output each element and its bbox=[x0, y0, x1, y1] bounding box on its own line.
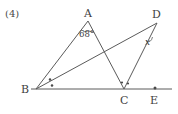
angle-label-x: x bbox=[145, 38, 150, 47]
angle-marker-dot-c1 bbox=[121, 81, 123, 83]
vertex-label-a: A bbox=[84, 8, 92, 19]
vertex-label-e: E bbox=[150, 95, 158, 106]
geometry-figure: (4) A B C D E 68° x bbox=[0, 0, 178, 114]
question-number: (4) bbox=[5, 9, 19, 19]
angle-label-68: 68° bbox=[79, 30, 94, 39]
vertex-label-d: D bbox=[152, 9, 161, 20]
angle-marker-dot-b1 bbox=[49, 78, 52, 81]
point-marker-dot-e bbox=[154, 87, 157, 90]
vertex-label-b: B bbox=[21, 84, 29, 95]
angle-marker-dot-c2 bbox=[127, 82, 129, 84]
angle-marker-dot-b2 bbox=[51, 84, 54, 87]
segment-CD bbox=[124, 23, 157, 89]
segment-BD bbox=[36, 23, 157, 89]
vertex-label-c: C bbox=[120, 95, 128, 106]
